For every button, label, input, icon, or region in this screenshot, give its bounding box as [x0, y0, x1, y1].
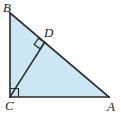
- vertex-label-c: C: [5, 99, 14, 112]
- vertex-label-a: A: [107, 100, 115, 113]
- vertex-label-b: B: [3, 1, 11, 14]
- triangle-diagram-svg: [0, 0, 121, 118]
- vertex-label-d: D: [44, 26, 53, 39]
- geometry-figure: B D C A: [0, 0, 121, 118]
